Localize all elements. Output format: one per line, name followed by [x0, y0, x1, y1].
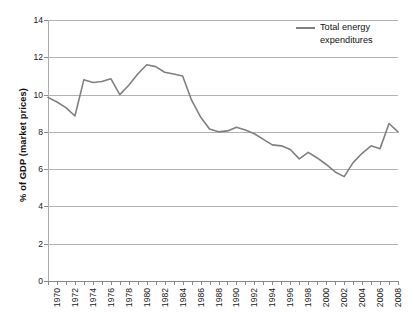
x-tick-label-1988: 1988 — [214, 288, 224, 307]
x-tick-mark-1987 — [201, 281, 202, 285]
x-tick-label-1994: 1994 — [267, 288, 277, 307]
x-tick-mark-2006 — [371, 281, 372, 285]
y-tick-label-6: 6 — [38, 164, 43, 174]
x-tick-label-1972: 1972 — [70, 288, 80, 307]
x-tick-mark-2003 — [344, 281, 345, 285]
x-tick-label-1992: 1992 — [249, 288, 259, 307]
x-tick-mark-1982 — [156, 281, 157, 285]
legend-swatch-icon — [296, 27, 315, 29]
x-tick-mark-2005 — [362, 281, 363, 285]
x-tick-mark-1970 — [48, 281, 49, 285]
x-tick-mark-1975 — [93, 281, 94, 285]
legend-label-line-2: expenditures — [320, 34, 404, 47]
x-tick-mark-1986 — [192, 281, 193, 285]
x-tick-mark-2004 — [353, 281, 354, 285]
x-tick-mark-1999 — [308, 281, 309, 285]
series-line-total-energy-expenditures — [48, 20, 398, 281]
x-tick-label-1998: 1998 — [303, 288, 313, 307]
x-tick-label-2000: 2000 — [321, 288, 331, 307]
y-tick-label-14: 14 — [33, 15, 43, 25]
x-tick-mark-1990 — [227, 281, 228, 285]
x-tick-label-1980: 1980 — [142, 288, 152, 307]
x-tick-label-1996: 1996 — [285, 288, 295, 307]
chart-legend: Total energy expenditures — [296, 21, 404, 46]
x-tick-mark-2008 — [389, 281, 390, 285]
x-tick-label-1970: 1970 — [52, 288, 62, 307]
x-tick-mark-1985 — [183, 281, 184, 285]
chart-container: % of GDP (market prices) 02468101214 197… — [0, 0, 413, 321]
x-tick-mark-1983 — [165, 281, 166, 285]
y-tick-label-8: 8 — [38, 127, 43, 137]
x-tick-mark-1979 — [129, 281, 130, 285]
x-tick-label-2006: 2006 — [375, 288, 385, 307]
x-tick-label-1984: 1984 — [178, 288, 188, 307]
x-tick-mark-1978 — [120, 281, 121, 285]
y-tick-label-12: 12 — [33, 52, 43, 62]
x-tick-label-2004: 2004 — [357, 288, 367, 307]
x-tick-mark-1988 — [210, 281, 211, 285]
x-tick-mark-2000 — [317, 281, 318, 285]
x-tick-mark-1973 — [75, 281, 76, 285]
x-tick-mark-1997 — [290, 281, 291, 285]
series-path-0 — [48, 65, 398, 177]
legend-label-total-energy-expenditures: Total energy expenditures — [320, 21, 404, 46]
y-tick-label-4: 4 — [38, 201, 43, 211]
x-tick-mark-1996 — [281, 281, 282, 285]
x-tick-mark-2001 — [326, 281, 327, 285]
x-tick-label-2008: 2008 — [393, 288, 403, 307]
x-tick-label-1978: 1978 — [124, 288, 134, 307]
x-tick-mark-1994 — [263, 281, 264, 285]
x-tick-mark-1976 — [102, 281, 103, 285]
y-axis-title: % of GDP (market prices) — [18, 30, 28, 260]
x-tick-mark-1977 — [111, 281, 112, 285]
y-tick-label-0: 0 — [38, 276, 43, 286]
x-tick-mark-1992 — [245, 281, 246, 285]
x-tick-label-1982: 1982 — [160, 288, 170, 307]
x-tick-mark-1971 — [57, 281, 58, 285]
y-tick-label-2: 2 — [38, 239, 43, 249]
x-tick-mark-2009 — [398, 281, 399, 285]
x-tick-mark-1991 — [236, 281, 237, 285]
x-tick-label-1986: 1986 — [196, 288, 206, 307]
x-tick-mark-1998 — [299, 281, 300, 285]
x-tick-mark-1974 — [84, 281, 85, 285]
y-tick-label-10: 10 — [33, 90, 43, 100]
x-tick-mark-1984 — [174, 281, 175, 285]
legend-label-line-1: Total energy — [320, 21, 404, 34]
x-tick-mark-1989 — [219, 281, 220, 285]
x-tick-label-1974: 1974 — [88, 288, 98, 307]
x-tick-mark-2002 — [335, 281, 336, 285]
x-tick-mark-1980 — [138, 281, 139, 285]
x-tick-label-1990: 1990 — [231, 288, 241, 307]
x-tick-mark-1972 — [66, 281, 67, 285]
x-tick-label-2002: 2002 — [339, 288, 349, 307]
x-tick-mark-1981 — [147, 281, 148, 285]
x-tick-mark-2007 — [380, 281, 381, 285]
x-tick-mark-1993 — [254, 281, 255, 285]
x-axis-line — [48, 281, 399, 282]
x-tick-label-1976: 1976 — [106, 288, 116, 307]
x-tick-mark-1995 — [272, 281, 273, 285]
